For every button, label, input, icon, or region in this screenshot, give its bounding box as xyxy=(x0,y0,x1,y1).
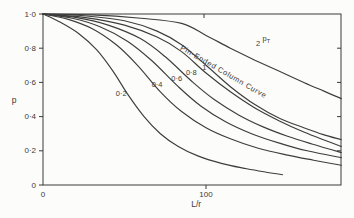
y-tick-label: 0 xyxy=(32,181,37,190)
curve-rho-2-label: 2 xyxy=(256,39,260,48)
curve-rho-0-4 xyxy=(43,14,341,165)
curve-rho-0-8-label: 0·8 xyxy=(186,68,197,77)
y-axis-title: p xyxy=(12,95,17,105)
y-tick-label: 0·8 xyxy=(24,44,36,53)
column-curves-chart: 1·00·80·60·40·200100L/rp0·20·40·60·812Pi… xyxy=(0,0,354,218)
y-tick-label: 1·0 xyxy=(24,10,36,19)
column-curves-figure: 1·00·80·60·40·200100L/rp0·20·40·60·812Pi… xyxy=(0,0,354,218)
rho-t-label: pT xyxy=(263,34,271,44)
curve-rho-1 xyxy=(43,14,341,147)
x-tick-label: 0 xyxy=(41,190,46,199)
y-tick-label: 0·2 xyxy=(24,146,36,155)
y-tick-label: 0·4 xyxy=(24,112,36,121)
x-axis-title: L/r xyxy=(191,199,201,209)
curve-rho-0-6-label: 0·6 xyxy=(171,74,182,83)
y-tick-label: 0·6 xyxy=(24,78,36,87)
x-tick-label: 100 xyxy=(199,190,213,199)
curve-rho-0-2-label: 0·2 xyxy=(116,89,127,98)
curve-rho-0-4-label: 0·4 xyxy=(152,80,163,89)
curve-rho-0-8 xyxy=(43,14,341,153)
curve-pin-ended xyxy=(43,14,341,140)
curve-rho-0-6 xyxy=(43,14,341,158)
